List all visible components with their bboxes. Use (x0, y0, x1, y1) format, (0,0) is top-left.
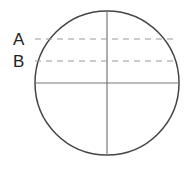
label-a: A (13, 30, 25, 49)
diagram: A B (0, 0, 190, 169)
label-b: B (13, 52, 24, 71)
